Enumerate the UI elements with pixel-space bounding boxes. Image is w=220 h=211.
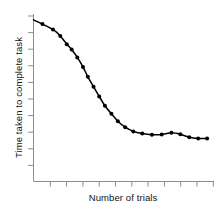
- learning-curve-chart: Time taken to complete task Number of tr…: [0, 0, 220, 211]
- chart-series-group: [34, 20, 210, 141]
- data-point-marker: [178, 132, 182, 136]
- y-axis-label: Time taken to complete task: [13, 28, 24, 168]
- data-point-marker: [40, 22, 44, 26]
- data-point-marker: [196, 136, 200, 140]
- data-point-marker: [58, 34, 62, 38]
- data-point-marker: [123, 125, 127, 129]
- data-point-marker: [86, 75, 90, 79]
- chart-plot-area: [0, 0, 220, 211]
- data-point-marker: [160, 133, 164, 137]
- data-point-marker: [150, 133, 154, 137]
- data-point-marker: [205, 136, 209, 140]
- data-point-marker: [187, 135, 191, 139]
- data-point-marker: [75, 55, 79, 59]
- x-axis-label: Number of trials: [33, 192, 213, 203]
- data-point-marker: [97, 94, 101, 98]
- chart-axes: [28, 14, 214, 187]
- series-markers-time-to-complete: [40, 22, 209, 140]
- data-point-marker: [51, 27, 55, 31]
- data-point-marker: [92, 85, 96, 89]
- y-axis-ticks: [28, 16, 34, 165]
- data-point-marker: [70, 48, 74, 52]
- x-axis-ticks: [50, 182, 213, 187]
- data-point-marker: [140, 132, 144, 136]
- data-point-marker: [103, 104, 107, 108]
- data-point-marker: [65, 42, 69, 46]
- data-point-marker: [131, 129, 135, 133]
- data-point-marker: [109, 112, 113, 116]
- data-point-marker: [116, 119, 120, 123]
- data-point-marker: [81, 65, 85, 69]
- data-point-marker: [169, 131, 173, 135]
